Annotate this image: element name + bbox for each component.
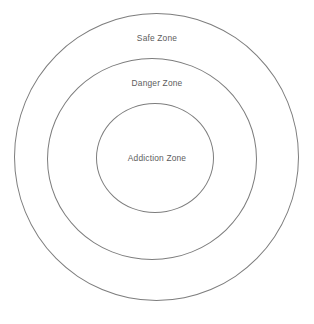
safe-zone-label: Safe Zone <box>0 34 314 42</box>
addiction-zone-label: Addiction Zone <box>0 154 314 162</box>
danger-zone-label: Danger Zone <box>0 79 314 87</box>
concentric-zone-diagram: Safe Zone Danger Zone Addiction Zone <box>0 0 314 324</box>
